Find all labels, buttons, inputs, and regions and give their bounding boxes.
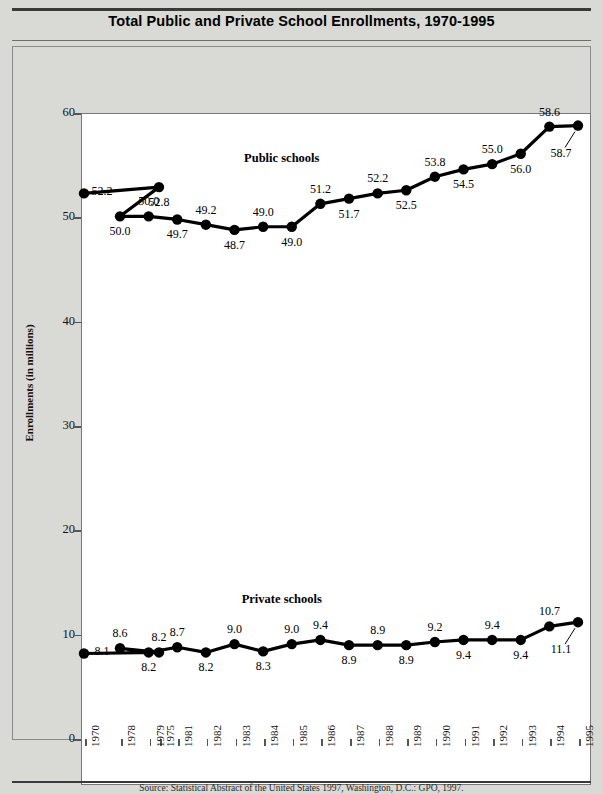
x-tick-label: 1994 [554, 725, 566, 747]
chart-page: Total Public and Private School Enrollme… [0, 0, 603, 794]
data-point-label: 8.9 [399, 653, 414, 668]
data-point-label: 49.7 [167, 227, 188, 242]
x-tick-mark [407, 739, 409, 746]
x-tick-mark [121, 739, 123, 746]
data-point-label: 51.2 [310, 182, 331, 197]
data-point-label: 8.2 [198, 660, 213, 675]
data-point-label: 8.9 [370, 623, 385, 638]
data-point-label: 58.6 [539, 105, 560, 120]
data-point-label: 52.2 [92, 184, 113, 199]
x-tick-mark [350, 739, 352, 746]
y-tick-label: 60 [41, 105, 75, 120]
x-tick-label: 1989 [411, 725, 423, 747]
data-point-label: 8.2 [152, 630, 167, 645]
x-tick-label: 1988 [383, 725, 395, 747]
data-point-label: 48.7 [224, 238, 245, 253]
x-tick-mark [465, 739, 467, 746]
x-tick-label: 1981 [182, 725, 194, 747]
data-point-label: 54.5 [453, 177, 474, 192]
x-tick-label: 1979 [154, 725, 166, 747]
y-tick-label: 0 [41, 731, 75, 746]
data-point-label: 8.9 [342, 653, 357, 668]
y-tick-mark [74, 113, 81, 115]
data-point-label: 11.1 [551, 642, 572, 657]
data-point-label: 9.4 [313, 618, 328, 633]
data-point-label: 50.0 [110, 224, 131, 239]
x-tick-label: 1990 [440, 725, 452, 747]
data-point-label: 49.2 [195, 203, 216, 218]
y-tick-label: 40 [41, 314, 75, 329]
data-point-label: 8.7 [170, 625, 185, 640]
y-tick-mark [74, 322, 81, 324]
x-tick-mark [150, 739, 152, 746]
data-point-label: 8.3 [256, 659, 271, 674]
x-tick-mark [550, 739, 552, 746]
x-tick-mark [85, 739, 87, 746]
y-tick-mark [74, 635, 81, 637]
page-title: Total Public and Private School Enrollme… [12, 13, 591, 29]
x-tick-mark [579, 739, 581, 746]
data-point-label: 9.0 [284, 622, 299, 637]
x-tick-label: 1983 [240, 725, 252, 747]
data-point-label: 56.0 [510, 162, 531, 177]
data-point-label: 49.0 [281, 235, 302, 250]
x-tick-label: 1985 [297, 725, 309, 747]
data-point-label: 9.0 [227, 622, 242, 637]
x-tick-mark [236, 739, 238, 746]
x-tick-label: 1984 [268, 725, 280, 747]
series-label: Public schools [244, 151, 319, 166]
data-point-label: 52.2 [367, 171, 388, 186]
y-tick-label: 20 [41, 522, 75, 537]
x-tick-mark [493, 739, 495, 746]
y-tick-mark [74, 530, 81, 532]
source-note: Source: Statistical Abstract of the Unit… [12, 783, 591, 793]
y-tick-mark [74, 426, 81, 428]
x-tick-label: 1986 [325, 725, 337, 747]
x-tick-label: 1993 [526, 725, 538, 747]
x-tick-label: 1992 [497, 725, 509, 747]
data-point-label: 53.8 [424, 155, 445, 170]
x-tick-mark [293, 739, 295, 746]
x-tick-label: 1991 [469, 725, 481, 747]
x-tick-label: 1987 [354, 725, 366, 747]
y-tick-mark [74, 739, 81, 741]
y-tick-label: 50 [41, 209, 75, 224]
y-tick-label: 10 [41, 627, 75, 642]
x-tick-mark [522, 739, 524, 746]
x-tick-mark [436, 739, 438, 746]
y-axis-title: Enrollments (in millions) [23, 293, 35, 473]
x-tick-label: 1982 [211, 725, 223, 747]
x-tick-mark [207, 739, 209, 746]
x-tick-label: 1995 [583, 725, 595, 747]
data-point-label: 9.2 [427, 620, 442, 635]
y-tick-mark [74, 217, 81, 219]
data-point-label: 9.4 [485, 618, 500, 633]
plot-area [81, 113, 591, 785]
data-point-label: 50.0 [138, 194, 159, 209]
title-rule-bottom [12, 40, 591, 41]
data-point-label: 8.6 [113, 626, 128, 641]
x-tick-mark [178, 739, 180, 746]
data-point-label: 9.4 [513, 648, 528, 663]
data-point-label: 8.1 [95, 644, 110, 659]
x-tick-label: 1978 [125, 725, 137, 747]
data-point-label: 9.4 [456, 648, 471, 663]
x-tick-mark [379, 739, 381, 746]
title-rule-top [12, 8, 591, 11]
data-point-label: 49.0 [253, 205, 274, 220]
data-point-label: 8.2 [141, 660, 156, 675]
x-tick-mark [321, 739, 323, 746]
y-tick-label: 30 [41, 418, 75, 433]
series-label: Private schools [242, 592, 322, 607]
data-point-label: 52.5 [396, 198, 417, 213]
data-point-label: 55.0 [482, 142, 503, 157]
x-tick-label: 1970 [89, 725, 101, 747]
data-point-label: 10.7 [539, 604, 560, 619]
x-tick-mark [264, 739, 266, 746]
data-point-label: 51.7 [339, 207, 360, 222]
data-point-label: 58.7 [551, 146, 572, 161]
